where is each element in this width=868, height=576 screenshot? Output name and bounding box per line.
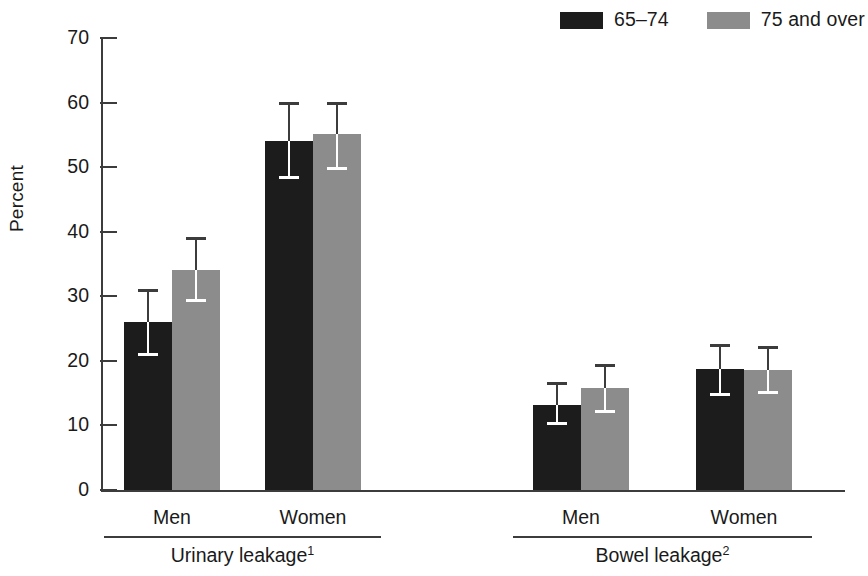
error-bar-lower-cap	[595, 410, 615, 413]
error-bar-upper-cap	[595, 364, 615, 367]
x-group-label: Women	[711, 508, 778, 528]
error-bar-upper-cap	[186, 237, 206, 240]
error-bar-upper-cap	[327, 102, 347, 105]
chart-legend: 65–74 75 and over	[560, 6, 865, 34]
section-label-text: Urinary leakage	[171, 544, 308, 566]
error-bar-lower-whisker	[288, 141, 290, 177]
y-tick-mark	[100, 166, 117, 168]
y-tick-mark	[100, 102, 117, 104]
section-footnote-marker: 1	[307, 544, 314, 558]
error-bar-upper-cap	[758, 346, 778, 349]
error-bar-upper-whisker	[767, 347, 769, 370]
y-axis-line	[101, 38, 103, 490]
error-bar-upper-whisker	[288, 103, 290, 142]
error-bar-lower-cap	[279, 176, 299, 179]
error-bar-upper-whisker	[195, 238, 197, 270]
error-bar-upper-whisker	[719, 345, 721, 370]
x-group-label: Men	[153, 508, 191, 528]
error-bar-upper-cap	[279, 102, 299, 105]
y-tick-label: 0	[78, 480, 89, 500]
error-bar-upper-cap	[138, 289, 158, 292]
legend-label-65-74: 65–74	[614, 10, 669, 30]
error-bar-lower-cap	[547, 422, 567, 425]
y-tick-mark	[100, 489, 117, 491]
error-bar-lower-whisker	[336, 134, 338, 169]
y-tick-mark	[100, 295, 117, 297]
error-bar-upper-cap	[547, 382, 567, 385]
section-footnote-marker: 2	[722, 544, 729, 558]
y-tick-label: 50	[67, 157, 89, 177]
error-bar-lower-cap	[327, 167, 347, 170]
legend-item-65-74: 65–74	[560, 10, 669, 30]
legend-label-75-and-over: 75 and over	[761, 10, 865, 30]
section-label: Urinary leakage1	[171, 546, 315, 566]
legend-swatch-gray-icon	[707, 12, 750, 29]
y-tick-label: 10	[67, 416, 89, 436]
y-tick-label: 40	[67, 222, 89, 242]
y-tick-label: 60	[67, 93, 89, 113]
x-group-label: Women	[280, 508, 347, 528]
legend-item-75-and-over: 75 and over	[707, 10, 865, 30]
x-axis-line	[101, 490, 845, 492]
error-bar-lower-whisker	[556, 405, 558, 423]
y-tick-mark	[100, 231, 117, 233]
y-tick-mark	[100, 424, 117, 426]
y-tick-label: 20	[67, 351, 89, 371]
error-bar-lower-whisker	[147, 322, 149, 354]
plot-area: 010203040506070	[101, 38, 845, 490]
error-bar-upper-whisker	[556, 383, 558, 404]
bar	[172, 270, 220, 490]
section-rule	[104, 536, 381, 538]
y-tick-label: 30	[67, 287, 89, 307]
error-bar-lower-cap	[186, 299, 206, 302]
x-group-label: Men	[562, 508, 600, 528]
y-tick-mark	[100, 37, 117, 39]
error-bar-upper-cap	[710, 344, 730, 347]
error-bar-lower-cap	[758, 391, 778, 394]
bar	[265, 141, 313, 490]
y-tick-mark	[100, 360, 117, 362]
legend-swatch-dark-icon	[560, 12, 603, 29]
error-bar-upper-whisker	[336, 103, 338, 134]
y-tick-label: 70	[67, 28, 89, 48]
chart-figure: 65–74 75 and over Percent 01020304050607…	[0, 0, 868, 576]
y-axis-title: Percent	[6, 165, 28, 232]
bar	[313, 134, 361, 490]
error-bar-lower-whisker	[767, 370, 769, 392]
error-bar-lower-cap	[710, 393, 730, 396]
error-bar-lower-whisker	[195, 270, 197, 299]
error-bar-lower-whisker	[604, 388, 606, 411]
error-bar-lower-whisker	[719, 369, 721, 394]
error-bar-upper-whisker	[604, 365, 606, 388]
section-rule	[513, 536, 812, 538]
section-label: Bowel leakage2	[596, 546, 730, 566]
section-label-text: Bowel leakage	[596, 544, 723, 566]
error-bar-upper-whisker	[147, 290, 149, 322]
error-bar-lower-cap	[138, 353, 158, 356]
